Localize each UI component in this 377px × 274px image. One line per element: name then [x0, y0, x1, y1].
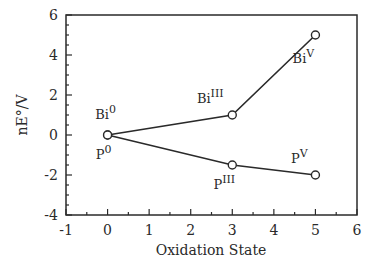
- y-tick-label: 4: [49, 47, 58, 63]
- x-tick-label: 2: [186, 222, 195, 238]
- y-tick-label: 2: [49, 87, 58, 103]
- series-group: [104, 31, 320, 179]
- x-axis-label: Oxidation State: [156, 242, 267, 258]
- series-line-bi: [108, 35, 316, 135]
- series-line-p: [108, 135, 316, 175]
- y-tick-label: 6: [49, 7, 58, 23]
- data-point-marker: [104, 131, 112, 139]
- x-tick-label: 6: [353, 222, 362, 238]
- y-tick-label: 0: [49, 127, 58, 143]
- x-tick-label: -1: [59, 222, 73, 238]
- x-tick-label: 5: [311, 222, 320, 238]
- y-axis: -4-20246: [44, 7, 72, 223]
- point-label: BiV: [293, 47, 316, 66]
- chart: -4-20246 -10123456 nE°/V Oxidation State…: [0, 0, 377, 274]
- y-tick-label: -2: [44, 167, 58, 183]
- x-tick-label: 0: [103, 222, 112, 238]
- point-label: Bi0: [95, 103, 116, 122]
- point-label: BiIII: [197, 87, 224, 106]
- x-tick-label: 1: [145, 222, 154, 238]
- data-point-marker: [311, 31, 319, 39]
- x-tick-label: 4: [269, 222, 278, 238]
- y-axis-label: nE°/V: [14, 94, 30, 136]
- data-point-marker: [228, 161, 236, 169]
- point-label: PV: [291, 147, 309, 166]
- x-axis: -10123456: [59, 209, 361, 238]
- x-tick-label: 3: [228, 222, 237, 238]
- y-tick-label: -4: [44, 207, 58, 223]
- data-point-marker: [311, 171, 319, 179]
- point-label: PIII: [213, 173, 235, 192]
- point-label: P0: [96, 143, 112, 162]
- data-point-marker: [228, 111, 236, 119]
